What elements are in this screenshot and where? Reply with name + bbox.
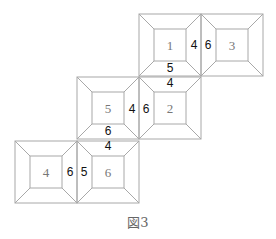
cube-net-diagram: 132564 4654466465	[0, 0, 276, 239]
corner-diagonal	[124, 188, 139, 203]
corner-diagonal	[139, 61, 154, 76]
face-center-label: 6	[105, 165, 112, 180]
edge-label: 6	[143, 102, 150, 116]
edge-label: 4	[191, 38, 198, 52]
corner-diagonal	[124, 141, 139, 156]
corner-diagonal	[201, 61, 216, 76]
corner-diagonal	[248, 61, 263, 76]
corner-diagonal	[15, 188, 30, 203]
face-center-label: 4	[43, 165, 50, 180]
squares-layer: 132564	[15, 14, 263, 203]
corner-diagonal	[186, 14, 201, 29]
corner-diagonal	[77, 141, 92, 156]
figure-caption: 図3	[0, 212, 276, 231]
corner-diagonal	[124, 77, 139, 92]
corner-diagonal	[186, 77, 201, 92]
corner-diagonal	[248, 14, 263, 29]
face-center-label: 2	[167, 101, 174, 116]
corner-diagonal	[139, 77, 154, 92]
corner-diagonal	[77, 188, 92, 203]
face-center-label: 5	[105, 101, 112, 116]
edge-label: 4	[129, 102, 136, 116]
corner-diagonal	[201, 14, 216, 29]
edge-label: 4	[105, 139, 112, 153]
corner-diagonal	[186, 61, 201, 76]
corner-diagonal	[15, 141, 30, 156]
corner-diagonal	[124, 124, 139, 139]
edge-label: 5	[167, 61, 174, 75]
edge-label: 5	[81, 165, 88, 179]
corner-diagonal	[77, 124, 92, 139]
corner-diagonal	[62, 141, 77, 156]
edge-label: 6	[105, 124, 112, 138]
face-center-label: 1	[167, 38, 174, 53]
corner-diagonal	[77, 77, 92, 92]
edge-label: 4	[167, 76, 174, 90]
face-center-label: 3	[229, 38, 236, 53]
corner-diagonal	[62, 188, 77, 203]
corner-diagonal	[139, 124, 154, 139]
corner-diagonal	[139, 14, 154, 29]
edge-label: 6	[67, 165, 74, 179]
edge-label: 6	[205, 38, 212, 52]
corner-diagonal	[186, 124, 201, 139]
